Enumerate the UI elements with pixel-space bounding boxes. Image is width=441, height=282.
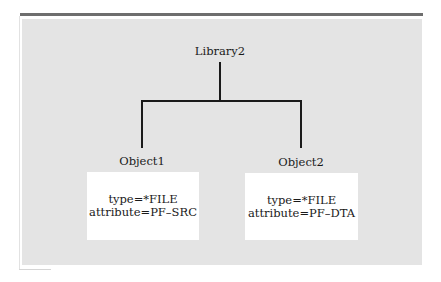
object2-attribute: attribute=PF–DTA — [248, 207, 355, 220]
child-node-object1-label: Object1 — [119, 154, 165, 168]
object1-attributes-box: type=*FILE attribute=PF–SRC — [87, 172, 199, 240]
right-child-connector — [300, 100, 302, 148]
root-connector — [219, 62, 221, 101]
child-node-object2-label: Object2 — [278, 155, 324, 169]
branch-connector — [141, 100, 302, 102]
top-rule — [20, 13, 423, 16]
left-edge-rule — [19, 16, 20, 269]
object2-type: type=*FILE — [267, 194, 336, 207]
left-child-connector — [141, 100, 143, 148]
root-node-library2: Library2 — [195, 44, 245, 58]
bottom-edge-rule — [19, 269, 51, 270]
object1-attribute: attribute=PF–SRC — [89, 206, 197, 219]
object2-attributes-box: type=*FILE attribute=PF–DTA — [245, 173, 358, 240]
